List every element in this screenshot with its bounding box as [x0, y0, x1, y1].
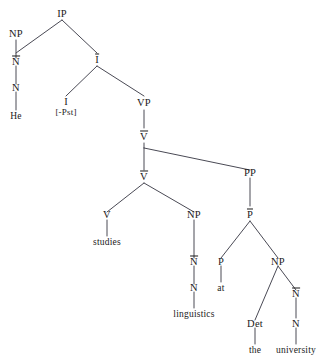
nbar-university-label: N: [292, 288, 300, 299]
node-nbar-object: N: [190, 256, 198, 267]
node-nbar-university: N: [292, 288, 300, 299]
node-n-object: N: [190, 282, 198, 293]
word-university: university: [276, 346, 316, 356]
word-linguistics: linguistics: [173, 310, 214, 320]
edge-nppp-nbar: [278, 266, 296, 290]
node-det: Det: [247, 318, 263, 329]
node-i-head: I: [64, 96, 68, 107]
node-np-in-pp: NP: [271, 256, 285, 267]
pbar-label: P: [247, 209, 253, 220]
node-np-subject: NP: [9, 28, 23, 39]
edge-vbarlow-npobj: [144, 183, 194, 212]
edge-vbarlow-v: [107, 183, 144, 212]
nbar-object-label: N: [190, 256, 198, 267]
node-pp: PP: [244, 167, 256, 178]
word-the: the: [249, 346, 261, 356]
word-studies: studies: [93, 238, 121, 248]
node-ip: IP: [57, 8, 67, 19]
node-vp: VP: [137, 97, 151, 108]
node-np-object: NP: [187, 209, 201, 220]
edge-vbar-pp: [144, 148, 250, 170]
ibar-label: I: [95, 54, 99, 65]
node-ibar: I: [95, 54, 99, 65]
node-n-university: N: [292, 318, 300, 329]
node-n-subject: N: [12, 82, 20, 93]
nbar-subject-label: N: [12, 56, 20, 67]
edge-ibar-vp: [97, 66, 144, 96]
edge-pbar-nppp: [250, 221, 278, 258]
vbar-upper-label: V: [140, 131, 148, 142]
word-he: He: [10, 112, 21, 122]
node-vbar-lower: V: [140, 171, 148, 182]
tree-edge-layer: [0, 0, 332, 364]
node-vbar-upper: V: [140, 131, 148, 142]
node-i-feature: [-Pst]: [55, 108, 76, 117]
word-at: at: [217, 284, 224, 294]
node-pbar: P: [247, 209, 253, 220]
vbar-lower-label: V: [140, 171, 148, 182]
syntax-tree-diagram: IP NP N N He I I [-Pst] VP V V V studies…: [0, 0, 332, 364]
edge-pbar-p: [221, 221, 250, 258]
edge-ip-ibar: [62, 20, 97, 53]
edge-nppp-det: [255, 266, 278, 320]
edge-ibar-i: [66, 66, 97, 96]
node-nbar-subject: N: [12, 56, 20, 67]
node-v-head: V: [103, 209, 111, 220]
node-p-head: P: [218, 256, 224, 267]
